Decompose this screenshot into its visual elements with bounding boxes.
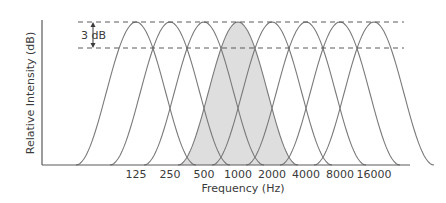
x-tick-label: 2000 [258,168,286,181]
x-tick-label: 125 [126,168,147,181]
band-curve-16000 [314,22,434,165]
x-tick-label: 250 [160,168,181,181]
x-tick-label: 16000 [357,168,392,181]
band-curve-8000 [280,22,400,165]
x-tick-label: 500 [194,168,215,181]
shaded-1000hz-band [178,22,298,165]
3db-annotation: 3 dB [81,29,106,42]
x-axis-label: Frequency (Hz) [202,182,285,195]
x-tick-labels: 125250500100020004000800016000 [126,168,392,181]
y-axis-label: Relative Intensity (dB) [24,32,37,154]
shaded-band-area [178,22,298,165]
x-tick-label: 1000 [224,168,252,181]
octave-band-filter-chart: 3 dB 125250500100020004000800016000 Freq… [0,0,446,203]
x-tick-label: 4000 [292,168,320,181]
x-tick-label: 8000 [326,168,354,181]
